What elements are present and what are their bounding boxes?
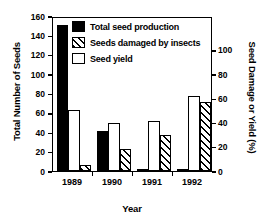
y-ticklabel-right: 0: [218, 168, 244, 177]
bar: [160, 135, 172, 171]
y-tick-right: [212, 74, 216, 75]
bar: [188, 96, 200, 171]
y-ticklabel-right: 100: [218, 46, 244, 55]
y-ticklabel-right: 80: [218, 71, 244, 80]
bar: [177, 169, 189, 171]
bar: [97, 131, 109, 171]
y-ticklabel-left: 20: [19, 148, 45, 157]
y-tick-right: [212, 50, 216, 51]
y-ticklabel-left: 80: [19, 90, 45, 99]
y-tick-right: [212, 147, 216, 148]
x-ticklabel: 1992: [172, 177, 212, 187]
legend-label: Seeds damaged by insects: [90, 38, 200, 48]
legend-swatch-open-icon: [72, 53, 85, 64]
legend-swatch-hatched-icon: [72, 37, 85, 48]
y-tick-right: [212, 123, 216, 124]
y-ticklabel-left: 160: [19, 13, 45, 22]
bar: [80, 165, 92, 171]
bar: [137, 169, 149, 171]
x-ticklabel: 1989: [52, 177, 92, 187]
x-ticklabel: 1991: [132, 177, 172, 187]
y-ticklabel-right: 60: [218, 95, 244, 104]
x-axis-label: Year: [52, 203, 212, 214]
y-ticklabel-left: 140: [19, 32, 45, 41]
chart-legend: Total seed production Seeds damaged by i…: [72, 19, 212, 67]
chart-figure: Total Number of Seeds Seed Damage or Yie…: [0, 0, 266, 223]
bar: [200, 102, 212, 171]
x-tick: [172, 172, 173, 176]
legend-item-seed-yield: Seed yield: [72, 51, 212, 66]
legend-label: Seed yield: [90, 54, 133, 64]
bar: [120, 149, 132, 171]
y-tick-right: [212, 171, 216, 172]
bar: [68, 110, 80, 171]
legend-item-total-seed-production: Total seed production: [72, 19, 212, 34]
y-ticklabel-left: 40: [19, 129, 45, 138]
y-axis-label-right: Seed Damage or Yield (%): [247, 28, 258, 168]
bar: [148, 121, 160, 171]
y-ticklabel-left: 0: [19, 168, 45, 177]
y-ticklabel-left: 120: [19, 51, 45, 60]
y-ticklabel-right: 40: [218, 119, 244, 128]
y-ticklabel-left: 100: [19, 71, 45, 80]
y-tick-right: [212, 99, 216, 100]
y-ticklabel-left: 60: [19, 109, 45, 118]
bar: [108, 123, 120, 171]
legend-item-seeds-damaged-by-insects: Seeds damaged by insects: [72, 35, 212, 50]
legend-label: Total seed production: [90, 22, 179, 32]
legend-swatch-solid-icon: [72, 21, 85, 32]
y-ticklabel-right: 20: [218, 143, 244, 152]
x-tick: [92, 172, 93, 176]
x-tick: [132, 172, 133, 176]
bar: [57, 25, 69, 171]
x-ticklabel: 1990: [92, 177, 132, 187]
